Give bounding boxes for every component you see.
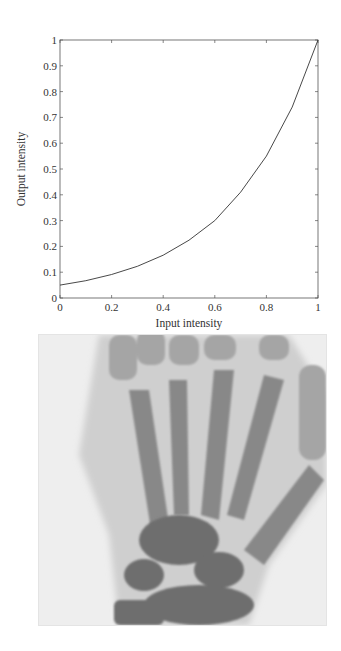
x-tick-label: 0 (57, 301, 63, 313)
hand-xray-image (38, 334, 327, 626)
x-tick-label: 0.4 (156, 301, 170, 313)
plot-frame (60, 40, 318, 298)
y-tick-label: 0.3 (43, 215, 57, 227)
x-tick-label: 1 (315, 301, 321, 313)
x-tick-label: 0.6 (208, 301, 222, 313)
y-axis-title: Output intensity (15, 132, 28, 207)
intensity-transform-chart: 00.10.20.30.40.50.60.70.80.91 00.20.40.6… (0, 0, 341, 330)
transform-curve (60, 40, 318, 285)
y-tick-label: 0.6 (43, 137, 57, 149)
y-axis-ticks: 00.10.20.30.40.50.60.70.80.91 (43, 34, 318, 304)
y-tick-label: 0.8 (43, 86, 57, 98)
y-tick-label: 1 (52, 34, 58, 46)
x-tick-label: 0.2 (105, 301, 119, 313)
x-axis-ticks: 00.20.40.60.81 (57, 40, 321, 313)
xray-illustration (39, 335, 326, 625)
y-tick-label: 0.9 (43, 60, 57, 72)
y-tick-label: 0.5 (43, 163, 57, 175)
y-tick-label: 0.4 (43, 189, 57, 201)
y-tick-label: 0.7 (43, 111, 57, 123)
y-tick-label: 0.2 (43, 240, 57, 252)
y-tick-label: 0.1 (43, 266, 57, 278)
x-axis-title: Input intensity (156, 317, 223, 330)
x-tick-label: 0.8 (260, 301, 274, 313)
